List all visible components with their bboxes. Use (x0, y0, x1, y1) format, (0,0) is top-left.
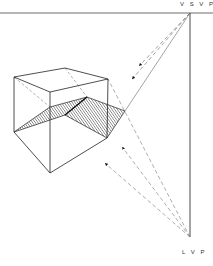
vsvp-dashed-line-2 (133, 13, 190, 78)
lvp-dashed-line-1 (123, 148, 190, 237)
lvp-label: L V P (182, 249, 206, 255)
perspective-diagram (0, 0, 213, 266)
lvp-to-cube-corner-line (108, 79, 190, 237)
cube-hidden-line-1 (14, 77, 50, 107)
vsvp-dashed-line-1 (140, 13, 190, 65)
lvp-dashed-line-2 (106, 164, 190, 237)
cube-hidden-line-2 (65, 68, 87, 97)
vsvp-label: V S V P (180, 1, 213, 7)
vsvp-to-plane-corner-line (125, 13, 190, 111)
